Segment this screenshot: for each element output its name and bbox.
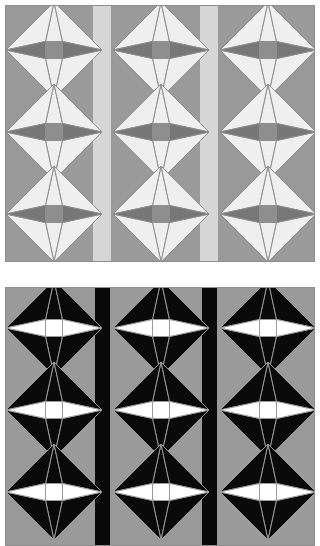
motif-column-1 <box>6 288 102 545</box>
quilt-panel-grayscale <box>5 5 315 262</box>
motif-column-3 <box>220 288 315 545</box>
diamond-motif-r3-c3 <box>220 166 315 261</box>
diamond-motif-r3-c1 <box>6 444 102 540</box>
pattern-canvas <box>0 0 320 546</box>
diamond-motif-r3-c2 <box>113 444 209 540</box>
motif-column-2 <box>113 288 209 545</box>
motif-column-3 <box>220 6 315 261</box>
diamond-motif-r3-c3 <box>220 444 315 540</box>
motif-column-2 <box>113 6 209 261</box>
column-layer-contrast <box>6 288 314 545</box>
motif-column-1 <box>6 6 102 261</box>
diamond-motif-r3-c1 <box>6 166 102 261</box>
quilt-panel-contrast <box>5 287 315 546</box>
diamond-motif-r3-c2 <box>113 166 209 261</box>
column-layer-grayscale <box>6 6 314 261</box>
